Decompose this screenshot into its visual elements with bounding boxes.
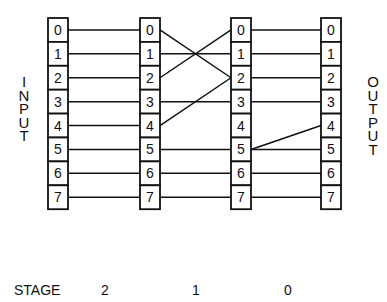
stage-label-2: 2 (95, 282, 115, 298)
cell-label: 6 (327, 165, 335, 181)
cell-label: 6 (237, 165, 245, 181)
cell-label: 7 (54, 189, 62, 205)
cell-label: 2 (237, 70, 245, 86)
cell-label: 5 (327, 141, 335, 157)
cell-label: 6 (146, 165, 154, 181)
connection-line (251, 126, 321, 150)
switch-column-0: 01234567 (48, 18, 68, 209)
cell-label: 3 (237, 94, 245, 110)
cell-label: 2 (327, 70, 335, 86)
cell-label: 3 (146, 94, 154, 110)
cell-label: 3 (54, 94, 62, 110)
switch-column-2: 01234567 (231, 18, 251, 209)
cell-label: 4 (327, 118, 335, 134)
cell-label: 1 (327, 46, 335, 62)
cell-label: 7 (327, 189, 335, 205)
cell-label: 1 (146, 46, 154, 62)
cell-label: 4 (146, 118, 154, 134)
cell-label: 0 (327, 22, 335, 38)
stage-title: STAGE (14, 282, 60, 298)
cell-label: 2 (146, 70, 154, 86)
cell-label: 2 (54, 70, 62, 86)
cell-label: 5 (237, 141, 245, 157)
cell-label: 0 (54, 22, 62, 38)
cell-label: 5 (146, 141, 154, 157)
cell-label: 5 (54, 141, 62, 157)
switch-column-3: 01234567 (321, 18, 341, 209)
cell-label: 1 (54, 46, 62, 62)
cell-label: 1 (237, 46, 245, 62)
output-label: OUTPUT (363, 75, 383, 156)
connection-lines (68, 30, 321, 197)
network-diagram: 01234567012345670123456701234567 (0, 0, 387, 302)
cell-label: 7 (146, 189, 154, 205)
stage-label-0: 0 (278, 282, 298, 298)
cell-label: 4 (237, 118, 245, 134)
stage-label-1: 1 (186, 282, 206, 298)
cell-label: 4 (54, 118, 62, 134)
cell-label: 7 (237, 189, 245, 205)
cell-label: 3 (327, 94, 335, 110)
cell-label: 0 (237, 22, 245, 38)
switch-column-1: 01234567 (140, 18, 160, 209)
cell-label: 0 (146, 22, 154, 38)
cell-label: 6 (54, 165, 62, 181)
switch-columns: 01234567012345670123456701234567 (48, 18, 341, 209)
input-label: INPUT (14, 75, 34, 143)
